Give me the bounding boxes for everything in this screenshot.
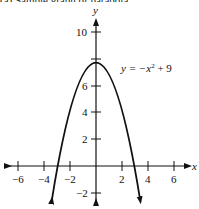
x-tick-label: −4 xyxy=(38,173,50,185)
x-tick-label: −2 xyxy=(64,173,76,185)
y-tick-label: −2 xyxy=(76,187,88,199)
equation-label: y = −x2 + 9 xyxy=(120,62,172,74)
y-tick-label: 10 xyxy=(76,26,88,38)
x-tick-label: 4 xyxy=(145,173,151,185)
y-tick-label: 4 xyxy=(82,106,88,118)
x-tick-label: 2 xyxy=(119,173,125,185)
y-tick-label: 6 xyxy=(82,80,88,92)
x-tick-label: 6 xyxy=(171,173,177,185)
parabola-chart: −6 −4 −2 2 4 6 10 6 4 2 −2 y x y = −x2 +… xyxy=(0,0,199,209)
y-axis-label: y xyxy=(92,4,98,16)
x-tick-label: −6 xyxy=(12,173,24,185)
y-tick-label: 2 xyxy=(82,133,88,145)
x-axis-label: x xyxy=(191,160,197,172)
